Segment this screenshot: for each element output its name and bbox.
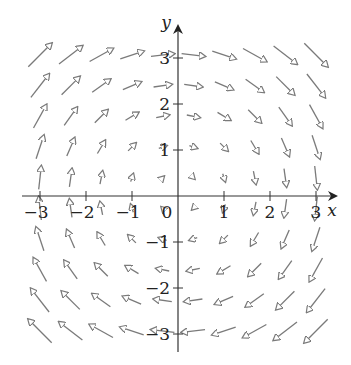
field-arrow [28, 319, 51, 342]
field-arrow [126, 112, 139, 120]
field-arrow [307, 74, 325, 97]
field-arrow [312, 227, 320, 250]
field-arrow [253, 171, 256, 184]
x-tick-label: 3 [311, 202, 322, 222]
field-arrow [123, 82, 141, 90]
field-arrow [62, 291, 80, 309]
field-arrow [92, 79, 110, 92]
field-arrow [284, 169, 287, 187]
field-arrow [220, 143, 228, 151]
field-arrow [31, 289, 49, 312]
field-arrow [312, 135, 320, 158]
field-arrow [59, 322, 82, 340]
field-arrow [31, 74, 49, 97]
field-arrow [90, 49, 113, 62]
field-arrow [120, 51, 143, 59]
x-tick-label: 2 [265, 202, 276, 222]
field-arrow [279, 107, 292, 125]
y-tick-label: −3 [145, 324, 170, 344]
field-arrow [95, 263, 108, 276]
field-arrow [248, 110, 261, 123]
x-tick-label: −3 [23, 202, 48, 222]
field-arrow [276, 77, 294, 95]
field-arrow [218, 112, 231, 120]
field-arrow [279, 261, 292, 279]
field-arrow [187, 268, 200, 271]
field-arrow [284, 199, 287, 217]
field-arrow [182, 54, 205, 57]
field-arrow [28, 43, 51, 66]
y-axis-label: y [160, 12, 171, 32]
field-arrow [243, 325, 266, 338]
field-arrow [253, 202, 256, 215]
field-arrow [154, 299, 172, 302]
field-arrow [212, 327, 235, 335]
field-arrow [69, 169, 72, 187]
field-arrow [59, 46, 82, 64]
field-arrow [243, 49, 266, 62]
field-arrow [62, 77, 80, 95]
field-arrow [36, 227, 44, 250]
field-arrow [246, 79, 264, 92]
field-arrow [307, 289, 325, 312]
field-arrow [212, 51, 235, 59]
field-arrow [251, 233, 259, 246]
field-arrow [310, 105, 323, 128]
field-arrow [97, 233, 105, 246]
field-arrow [161, 176, 164, 179]
field-arrow [248, 263, 261, 276]
field-arrow [34, 105, 47, 128]
field-arrow [92, 294, 110, 307]
field-arrow [120, 327, 143, 335]
field-arrow [128, 143, 136, 151]
field-arrow [156, 268, 169, 271]
field-arrow [64, 107, 77, 125]
field-arrow [67, 138, 75, 156]
field-arrow [274, 46, 297, 64]
field-arrow [304, 319, 327, 342]
field-arrow [281, 230, 289, 248]
y-tick-label: 1 [159, 140, 170, 160]
origin-label: 0 [162, 202, 173, 222]
field-arrow [218, 266, 231, 274]
field-arrow [95, 110, 108, 123]
field-arrow [310, 258, 323, 281]
field-arrow [304, 43, 327, 66]
field-arrow [128, 235, 136, 243]
field-arrow [189, 146, 197, 149]
field-arrow [189, 238, 197, 241]
field-arrow [223, 174, 226, 182]
field-arrow [131, 174, 134, 182]
y-tick-label: −1 [145, 232, 170, 252]
field-arrow [315, 166, 318, 189]
field-arrow [192, 207, 195, 210]
field-arrow [154, 84, 172, 87]
field-arrow [215, 296, 233, 304]
field-arrow [67, 230, 75, 248]
field-arrow [182, 330, 205, 333]
vector-field-plot: −3−2−1123−3−2−11230xy [0, 0, 351, 365]
y-tick-label: 3 [159, 48, 170, 68]
field-arrow [220, 235, 228, 243]
field-arrow [184, 84, 202, 87]
axes [22, 26, 336, 352]
field-arrow [192, 176, 195, 179]
field-arrow [215, 82, 233, 90]
field-arrow [281, 138, 289, 156]
field-arrow [34, 258, 47, 281]
field-arrow [274, 322, 297, 340]
field-arrow [184, 299, 202, 302]
field-arrow [90, 325, 113, 338]
field-arrow [276, 291, 294, 309]
x-axis-label: x [327, 200, 337, 220]
field-arrow [251, 141, 259, 154]
field-arrow [156, 115, 169, 118]
x-tick-label: −1 [115, 202, 140, 222]
field-arrow [39, 166, 42, 189]
field-arrow [97, 141, 105, 154]
field-arrow [123, 296, 141, 304]
x-tick-label: −2 [69, 202, 94, 222]
y-tick-label: −2 [145, 278, 170, 298]
field-arrow [187, 115, 200, 118]
field-arrow [64, 261, 77, 279]
